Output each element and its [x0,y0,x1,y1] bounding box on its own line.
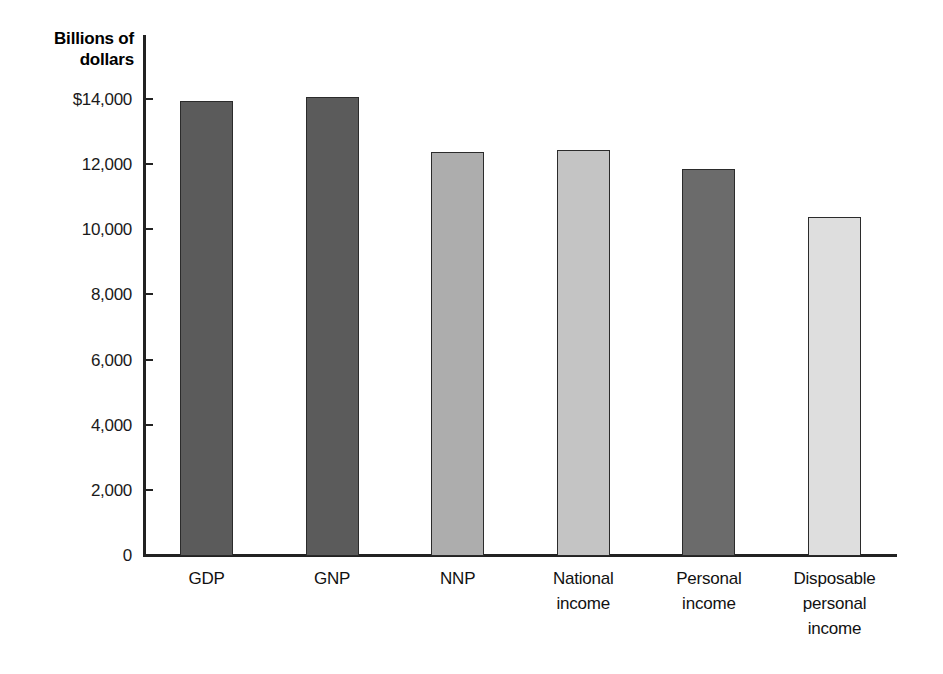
x-axis-label-line: income [520,591,646,616]
x-axis-label-line: income [772,616,898,641]
y-tick-mark [143,293,153,295]
x-axis-label-gdp: GDP [144,566,270,591]
bar-gdp [180,101,233,556]
y-tick-mark [143,163,153,165]
x-axis-label-line: National [520,566,646,591]
y-tick-mark [143,424,153,426]
y-tick-mark [143,98,153,100]
bar-national-income [557,150,610,556]
x-axis-line [143,554,897,557]
bar-disposable-personal-income [808,217,861,556]
x-axis-label-gnp: GNP [269,566,395,591]
y-tick-label: $14,000 [0,91,132,108]
x-axis-label-line: GDP [144,566,270,591]
bar-personal-income [682,169,735,556]
x-axis-label-line: income [646,591,772,616]
y-tick-label: 4,000 [0,417,132,434]
x-axis-label-national-income: Nationalincome [520,566,646,616]
y-tick-label: 2,000 [0,482,132,499]
y-axis-title: Billions of dollars [36,28,134,70]
y-tick-label: 6,000 [0,352,132,369]
y-tick-label: 12,000 [0,156,132,173]
y-axis-line [143,35,146,556]
x-axis-label-line: Disposable [772,566,898,591]
x-axis-label-line: NNP [395,566,521,591]
x-axis-label-line: GNP [269,566,395,591]
y-tick-mark [143,489,153,491]
bar-gnp [306,97,359,556]
y-tick-mark [143,359,153,361]
x-axis-label-personal-income: Personalincome [646,566,772,616]
y-tick-mark [143,228,153,230]
y-tick-label: 0 [0,547,132,564]
x-axis-label-nnp: NNP [395,566,521,591]
x-axis-label-line: Personal [646,566,772,591]
bar-chart: Billions of dollars 02,0004,0006,0008,00… [0,0,943,674]
y-tick-label: 10,000 [0,221,132,238]
x-axis-label-line: personal [772,591,898,616]
y-tick-label: 8,000 [0,286,132,303]
x-axis-label-disposable-personal-income: Disposablepersonalincome [772,566,898,641]
bar-nnp [431,152,484,556]
